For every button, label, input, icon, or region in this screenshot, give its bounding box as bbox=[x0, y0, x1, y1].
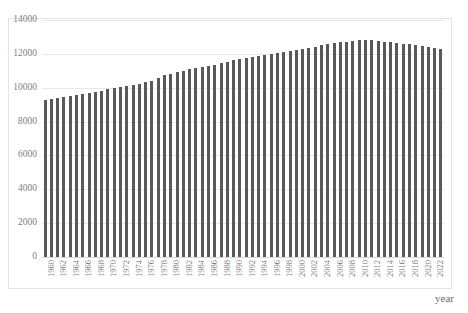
y-axis-tick-label: 10000 bbox=[13, 83, 37, 93]
bar[interactable] bbox=[176, 72, 179, 257]
bar[interactable] bbox=[408, 44, 411, 257]
bar[interactable] bbox=[395, 43, 398, 257]
x-axis-tick-label: 1980 bbox=[172, 260, 181, 277]
bar[interactable] bbox=[113, 88, 116, 257]
bar[interactable] bbox=[307, 48, 310, 257]
bar[interactable] bbox=[402, 44, 405, 257]
x-axis-tick-label: 2016 bbox=[398, 260, 407, 277]
bar[interactable] bbox=[194, 68, 197, 257]
axis-baseline bbox=[42, 257, 444, 258]
bar[interactable] bbox=[157, 78, 160, 257]
y-axis-tick-label: 2000 bbox=[18, 218, 37, 228]
bar[interactable] bbox=[56, 98, 59, 257]
bar[interactable] bbox=[345, 42, 348, 257]
bar[interactable] bbox=[351, 41, 354, 257]
gridline bbox=[42, 20, 444, 21]
bar[interactable] bbox=[119, 87, 122, 257]
x-axis-tick-label: 2012 bbox=[373, 260, 382, 277]
x-axis-tick-label: 1988 bbox=[223, 260, 232, 277]
x-axis-tick-label: 2000 bbox=[298, 260, 307, 277]
bar[interactable] bbox=[301, 49, 304, 257]
bar[interactable] bbox=[339, 42, 342, 257]
bar[interactable] bbox=[226, 62, 229, 257]
x-axis-tick-label: 1968 bbox=[97, 260, 106, 277]
bar[interactable] bbox=[245, 58, 248, 257]
bar[interactable] bbox=[238, 59, 241, 257]
x-axis-tick-label: 2020 bbox=[424, 260, 433, 277]
bar[interactable] bbox=[100, 91, 103, 257]
bar[interactable] bbox=[427, 47, 430, 257]
bar[interactable] bbox=[182, 71, 185, 257]
bar[interactable] bbox=[358, 40, 361, 257]
bar[interactable] bbox=[289, 51, 292, 257]
bar[interactable] bbox=[421, 46, 424, 257]
x-axis-tick-label: 1962 bbox=[59, 260, 68, 277]
bar[interactable] bbox=[144, 82, 147, 257]
x-axis-tick-label: 2010 bbox=[361, 260, 370, 277]
bar[interactable] bbox=[364, 40, 367, 257]
bar[interactable] bbox=[207, 66, 210, 257]
bar[interactable] bbox=[276, 53, 279, 257]
bar[interactable] bbox=[257, 56, 260, 257]
y-axis-tick-label: 4000 bbox=[18, 184, 37, 194]
bar[interactable] bbox=[125, 86, 128, 257]
bar[interactable] bbox=[320, 45, 323, 257]
x-axis-tick-label: 2018 bbox=[411, 260, 420, 277]
bar[interactable] bbox=[383, 42, 386, 257]
bar[interactable] bbox=[370, 40, 373, 257]
x-axis-tick-label: 1970 bbox=[109, 260, 118, 277]
bar[interactable] bbox=[94, 92, 97, 257]
bar[interactable] bbox=[88, 93, 91, 257]
bar[interactable] bbox=[163, 75, 166, 257]
bar[interactable] bbox=[44, 100, 47, 257]
bar[interactable] bbox=[377, 41, 380, 257]
bar[interactable] bbox=[106, 89, 109, 257]
x-axis-tick-label: 2002 bbox=[310, 260, 319, 277]
x-axis-tick-label: 2014 bbox=[386, 260, 395, 277]
bar[interactable] bbox=[132, 85, 135, 257]
bar[interactable] bbox=[433, 48, 436, 257]
x-axis-tick-label: 1994 bbox=[260, 260, 269, 277]
bar[interactable] bbox=[150, 81, 153, 257]
bar[interactable] bbox=[270, 54, 273, 257]
bar[interactable] bbox=[414, 45, 417, 257]
bar[interactable] bbox=[333, 43, 336, 257]
bar[interactable] bbox=[69, 96, 72, 257]
bar[interactable] bbox=[282, 52, 285, 257]
x-axis-title: year bbox=[435, 292, 454, 305]
x-axis-tick-label: 1964 bbox=[72, 260, 81, 277]
x-axis-tick-label: 1972 bbox=[122, 260, 131, 277]
bar[interactable] bbox=[50, 99, 53, 257]
bar[interactable] bbox=[295, 50, 298, 257]
x-axis-tick-label: 1984 bbox=[197, 260, 206, 277]
bar[interactable] bbox=[201, 67, 204, 257]
bar[interactable] bbox=[138, 84, 141, 257]
bar[interactable] bbox=[263, 55, 266, 257]
bar[interactable] bbox=[75, 95, 78, 257]
x-axis-tick-label: 1992 bbox=[248, 260, 257, 277]
x-axis-tick-label: 1966 bbox=[84, 260, 93, 277]
bar[interactable] bbox=[439, 49, 442, 257]
y-axis-tick-label: 8000 bbox=[18, 117, 37, 127]
x-axis-tick-label: 2008 bbox=[348, 260, 357, 277]
bar[interactable] bbox=[213, 65, 216, 257]
bar[interactable] bbox=[188, 69, 191, 257]
chart-frame: 0200040006000800010000120001400019601962… bbox=[8, 18, 452, 289]
x-axis-tick-label: 2004 bbox=[323, 260, 332, 277]
bar[interactable] bbox=[389, 42, 392, 257]
x-axis-tick-label: 1982 bbox=[185, 260, 194, 277]
x-axis-tick-label: 1996 bbox=[273, 260, 282, 277]
x-axis-tick-label: 2022 bbox=[436, 260, 445, 277]
bar[interactable] bbox=[169, 74, 172, 257]
bar[interactable] bbox=[220, 63, 223, 257]
x-axis-tick-label: 1990 bbox=[235, 260, 244, 277]
bar[interactable] bbox=[81, 94, 84, 257]
x-axis-tick-label: 1986 bbox=[210, 260, 219, 277]
bar[interactable] bbox=[326, 44, 329, 257]
bar[interactable] bbox=[232, 60, 235, 257]
y-axis-tick-label: 0 bbox=[32, 252, 37, 262]
bar[interactable] bbox=[62, 97, 65, 257]
bar[interactable] bbox=[251, 57, 254, 257]
plot-area: 0200040006000800010000120001400019601962… bbox=[42, 20, 444, 257]
bar[interactable] bbox=[314, 47, 317, 257]
